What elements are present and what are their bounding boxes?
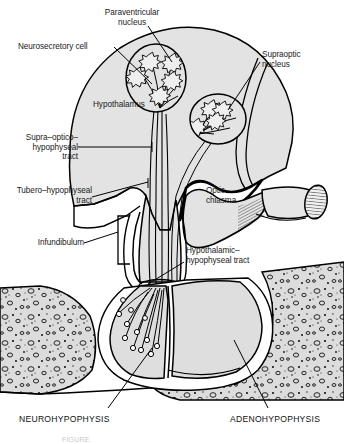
figure-caption: FIGURE bbox=[62, 436, 90, 443]
optic-nerve-group bbox=[256, 183, 330, 220]
pituitary-gland-group bbox=[98, 278, 273, 390]
label-hypothalamic-hypophyseal-tract: Hypothalamic– hypophyseal tract bbox=[186, 246, 306, 265]
label-neurosecretory-cell: Neurosecretory cell bbox=[18, 42, 118, 52]
label-infundibulum: Infundibulum bbox=[2, 238, 84, 248]
label-supraoptic-nucleus: Supraoptic nucleus bbox=[262, 50, 340, 69]
bone-left bbox=[0, 286, 96, 394]
leader-infundibulum bbox=[84, 232, 118, 243]
label-tubero-hypophyseal-tract: Tubero–hypophyseal tract bbox=[2, 186, 92, 205]
label-hypothalamus: Hypothalamus bbox=[93, 100, 183, 110]
label-adenohypophysis: ADENOHYPOPHYSIS bbox=[230, 414, 320, 424]
label-supra-optico-hypophyseal-tract: Supra–optico– hypophyseal tract bbox=[2, 133, 78, 162]
label-paraventricular-nucleus: Paraventricular nucleus bbox=[74, 8, 190, 27]
label-optic-chiasma: Optic chiasma bbox=[206, 186, 258, 205]
label-neurohypophysis: NEUROHYPOPHYSIS bbox=[19, 414, 110, 424]
hypothalamus-ledge-side bbox=[74, 206, 140, 228]
